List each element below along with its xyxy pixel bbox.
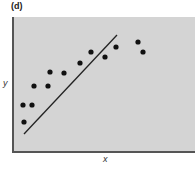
data-point (29, 102, 34, 107)
data-point (140, 49, 145, 54)
panel-label: (d) (11, 1, 23, 11)
y-axis-label: y (3, 78, 8, 88)
data-point (102, 54, 107, 59)
data-points (20, 39, 145, 124)
data-point (31, 83, 36, 88)
data-point (135, 39, 140, 44)
data-point (45, 83, 50, 88)
fit-line (24, 35, 117, 134)
x-axis-label: x (103, 154, 108, 164)
data-point (77, 60, 82, 65)
data-point (113, 44, 118, 49)
data-point (21, 119, 26, 124)
data-point (20, 102, 25, 107)
data-point (61, 70, 66, 75)
data-point (88, 49, 93, 54)
data-point (47, 69, 52, 74)
scatter-overlay (0, 0, 195, 169)
